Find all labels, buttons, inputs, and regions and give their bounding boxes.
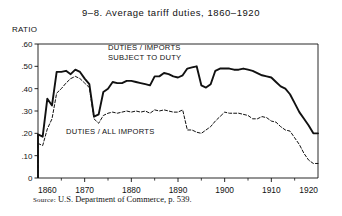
- lower-series-label: DUTIES / ALL IMPORTS: [66, 127, 155, 136]
- source-prefix: Source:: [33, 196, 56, 204]
- annotation-layer: DUTIES / IMPORTS SUBJECT TO DUTY DUTIES …: [0, 0, 342, 216]
- figure-container: 9–8. Average tariff duties, 1860–1920 RA…: [0, 0, 342, 216]
- source-note: Source: U.S. Department of Commerce, p. …: [33, 194, 192, 204]
- upper-series-label-line1: DUTIES / IMPORTS: [108, 43, 181, 52]
- upper-series-label-line2: SUBJECT TO DUTY: [108, 53, 181, 62]
- source-text: U.S. Department of Commerce, p. 539.: [58, 194, 192, 204]
